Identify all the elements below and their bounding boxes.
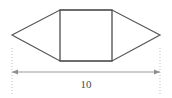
geometry-figure: 10 — [0, 0, 172, 98]
dimension-arrow-right-icon — [154, 70, 160, 75]
inner-rectangle — [60, 10, 112, 61]
hexagon-outline — [12, 10, 160, 61]
dimension-label: 10 — [81, 78, 93, 90]
figure-svg: 10 — [0, 0, 172, 98]
dimension-arrow-left-icon — [12, 70, 18, 75]
